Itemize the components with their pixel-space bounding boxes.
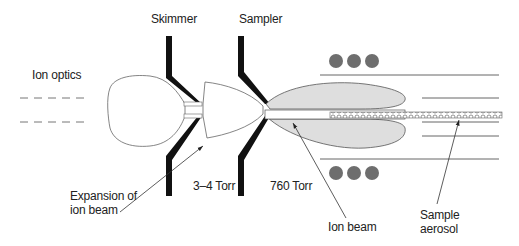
ion-optics-lenses — [20, 98, 88, 122]
sample-aerosol-label-line2: aerosol — [420, 222, 458, 236]
rf-coil-top — [329, 54, 379, 68]
pressure-intermediate-label: 3–4 Torr — [193, 179, 235, 193]
ion-beam-label: Ion beam — [328, 220, 376, 234]
sampler-label: Sampler — [239, 12, 282, 26]
plasma-lower-lobe — [266, 116, 405, 148]
ion-optics-region — [108, 76, 185, 147]
plasma-upper-lobe — [266, 83, 405, 109]
sample-aerosol-arrow — [437, 120, 459, 204]
pressure-atmospheric-label: 760 Torr — [270, 179, 312, 193]
icp-ms-interface-diagram: Skimmer Sampler Ion optics Expansion of … — [0, 0, 519, 246]
expansion-label-line2: ion beam — [70, 203, 118, 217]
rf-coil-bottom — [329, 166, 379, 180]
expansion-label-line1: Expansion of — [70, 189, 137, 203]
skimmer-label: Skimmer — [151, 12, 197, 26]
ion-optics-label: Ion optics — [32, 68, 81, 82]
sample-aerosol-tube — [330, 112, 502, 118]
sample-aerosol-label-line1: Sample — [420, 208, 460, 222]
